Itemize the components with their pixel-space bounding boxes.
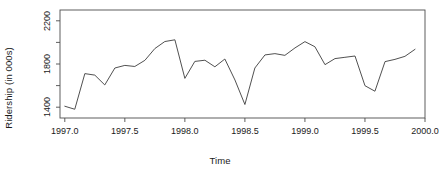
y-tick-label: 2200 <box>40 6 54 36</box>
x-tick-label: 2000.0 <box>400 126 440 136</box>
x-tick-label: 1998.0 <box>160 126 210 136</box>
ridership-time-series-chart: Ridership (in 000s) Time 140018002200 19… <box>0 0 440 176</box>
x-tick-label: 1998.5 <box>220 126 270 136</box>
plot-border <box>60 10 425 118</box>
x-tick-label: 1999.0 <box>280 126 330 136</box>
plot-frame <box>60 10 425 118</box>
y-tick-label: 1800 <box>40 49 54 79</box>
y-tick-label: 1400 <box>40 92 54 122</box>
x-tick-label: 1999.5 <box>340 126 390 136</box>
x-axis-ticks <box>65 118 425 122</box>
x-tick-label: 1997.0 <box>40 126 90 136</box>
x-tick-label: 1997.5 <box>100 126 150 136</box>
data-line <box>65 40 415 109</box>
plot-area <box>0 0 440 176</box>
ridership-line <box>65 40 415 109</box>
y-axis-ticks <box>56 21 60 107</box>
